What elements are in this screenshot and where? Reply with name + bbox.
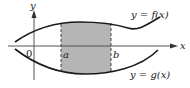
bound-b-label: b: [113, 49, 119, 60]
x-axis-label: x: [180, 40, 186, 51]
y-axis-label: y: [29, 0, 36, 11]
x-axis-arrow-icon: [170, 44, 178, 49]
origin-label: 0: [26, 48, 32, 59]
curve-g-label: y = g(x): [129, 69, 170, 80]
y-axis-arrow-icon: [32, 10, 37, 18]
area-between-curves-diagram: y x 0 a b y = f(x) y = g(x): [0, 0, 190, 88]
curve-f-label: y = f(x): [130, 9, 169, 20]
bound-a-label: a: [63, 49, 69, 60]
